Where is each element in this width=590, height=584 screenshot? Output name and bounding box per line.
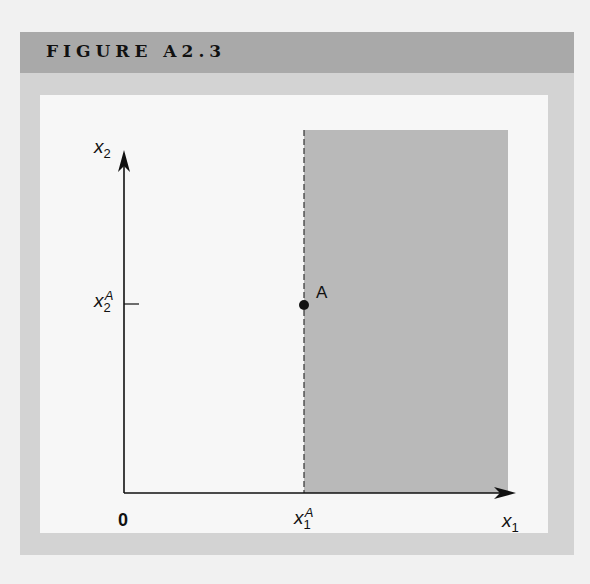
x-axis-sub: 1 [512,520,519,535]
shaded-region [304,130,508,493]
y-axis-label: x2 [94,136,111,161]
y-tick-var: x [94,290,104,311]
point-a-marker [299,300,309,310]
origin-text: 0 [118,510,128,530]
y-axis-var: x [94,136,104,157]
diagram-canvas [0,0,590,584]
x-tick-label: x1A [294,505,313,532]
y-tick-sup: A [105,288,114,303]
point-a-label: A [316,283,327,303]
x-tick-var: x [294,507,304,528]
origin-label: 0 [118,510,128,531]
y-axis-sub: 2 [104,146,111,161]
x-axis-var: x [502,510,512,531]
point-a-text: A [316,283,327,302]
y-tick-label: x2A [94,288,113,315]
x-tick-sup: A [305,505,314,520]
x-axis-label: x1 [502,510,519,535]
